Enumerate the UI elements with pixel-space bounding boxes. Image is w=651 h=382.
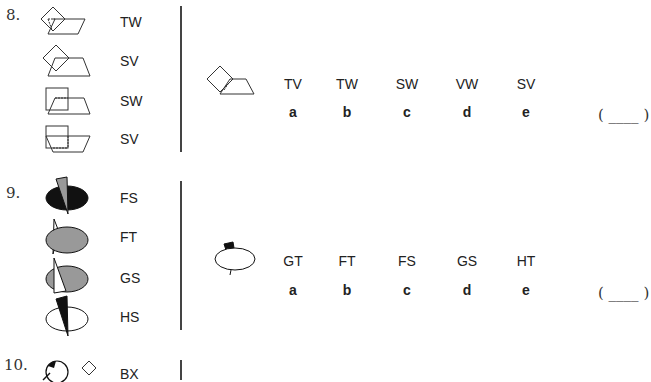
example-code: GS [120,270,140,286]
figure-white-ellipse-black-triangle [44,295,94,337]
divider-line [180,360,182,380]
option-letter-c[interactable]: c [387,282,427,298]
option-text-a: GT [273,253,313,269]
answer-blank[interactable]: ( ____ ) [598,106,649,124]
figure-square-parallelogram [38,86,98,118]
option-letter-d[interactable]: d [447,104,487,120]
option-text-e: HT [506,253,546,269]
option-letter-c[interactable]: c [387,104,427,120]
option-letter-a[interactable]: a [273,104,313,120]
option-letter-e[interactable]: e [506,282,546,298]
question-number: 9. [6,184,20,202]
option-text-b: TW [327,76,367,92]
figure-diamond-trapezoid [38,44,98,78]
example-code: SV [120,131,139,147]
example-code: SW [120,93,143,109]
option-text-e: SV [506,76,546,92]
option-text-c: FS [387,253,427,269]
answer-blank[interactable]: ( ____ ) [598,284,649,302]
question-number: 10. [4,356,28,374]
figure-grey-ellipse-white-triangle-front [44,257,94,297]
example-code: FT [120,229,137,245]
option-text-d: GS [447,253,487,269]
question-number: 8. [6,6,20,24]
figure-black-ellipse-grey-triangle [44,176,94,216]
figure-grey-ellipse-white-triangle [44,218,94,258]
divider-line [180,181,182,330]
figure-circle-and-diamond [38,358,108,382]
option-text-a: TV [273,76,313,92]
option-letter-b[interactable]: b [327,282,367,298]
option-letter-a[interactable]: a [273,282,313,298]
test-figure-white-ellipse-black-trapezoid [214,240,264,280]
example-code: HS [120,309,139,325]
option-letter-e[interactable]: e [506,104,546,120]
figure-diamond-parallelogram [38,6,98,38]
example-code: SV [120,53,139,69]
divider-line [180,6,182,152]
example-code: BX [120,366,139,382]
option-letter-d[interactable]: d [447,282,487,298]
figure-square-inverted-trapezoid [38,124,98,156]
example-code: FS [120,190,138,206]
option-text-d: VW [447,76,487,92]
option-letter-b[interactable]: b [327,104,367,120]
option-text-c: SW [387,76,427,92]
test-figure-diamond-trapezoid [206,64,266,98]
example-code: TW [120,14,142,30]
option-text-b: FT [327,253,367,269]
